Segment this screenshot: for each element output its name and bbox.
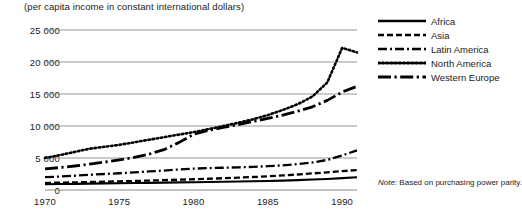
legend-line-swatch <box>378 16 426 26</box>
legend-line-swatch <box>378 58 426 68</box>
legend-item-label: Western Europe <box>431 72 499 83</box>
legend-item-latin-america[interactable]: Latin America <box>378 42 499 56</box>
legend-item-label: Latin America <box>431 44 489 55</box>
series-lines <box>45 48 357 184</box>
series-line-north-america <box>45 48 357 158</box>
legend-line-swatch <box>378 44 426 54</box>
series-line-asia <box>45 170 357 183</box>
legend-item-asia[interactable]: Asia <box>378 28 499 42</box>
chart-note: Note: Based on purchasing power parity. <box>378 178 522 187</box>
note-text: Based on purchasing power parity. <box>399 178 522 187</box>
legend-item-label: Asia <box>431 30 449 41</box>
note-prefix: Note: <box>378 178 397 187</box>
legend-item-western-europe[interactable]: Western Europe <box>378 70 499 84</box>
legend-item-label: Africa <box>431 16 455 27</box>
gridlines <box>45 30 357 190</box>
legend-line-swatch <box>378 72 426 82</box>
chart-legend: AfricaAsiaLatin AmericaNorth AmericaWest… <box>378 14 499 84</box>
legend-item-north-america[interactable]: North America <box>378 56 499 70</box>
legend-item-africa[interactable]: Africa <box>378 14 499 28</box>
legend-item-label: North America <box>431 58 491 69</box>
legend-line-swatch <box>378 30 426 40</box>
